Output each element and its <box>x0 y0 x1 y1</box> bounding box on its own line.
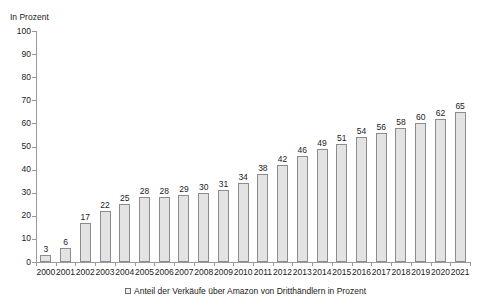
x-axis-tick-label: 2002 <box>76 267 95 277</box>
bar-value-label: 25 <box>120 193 129 203</box>
bar-value-label: 49 <box>317 138 326 148</box>
bar: 3 <box>40 255 51 262</box>
bar-value-label: 51 <box>337 133 346 143</box>
x-axis-tick-label: 2009 <box>214 267 233 277</box>
x-tick-mark <box>214 262 215 266</box>
bar-value-label: 17 <box>81 212 90 222</box>
bar: 6 <box>60 248 71 262</box>
x-tick-mark <box>115 262 116 266</box>
x-tick-mark <box>75 262 76 266</box>
bar-value-label: 31 <box>219 179 228 189</box>
x-axis-tick-label: 2017 <box>372 267 391 277</box>
x-tick-mark <box>95 262 96 266</box>
bar-value-label: 3 <box>43 244 48 254</box>
y-axis-tick-label: 40 <box>22 164 31 174</box>
bar-value-label: 46 <box>298 145 307 155</box>
bar-value-label: 58 <box>396 117 405 127</box>
x-tick-mark <box>292 262 293 266</box>
x-axis-tick-label: 2019 <box>411 267 430 277</box>
square-outline-icon <box>125 288 131 294</box>
bar-value-label: 62 <box>436 108 445 118</box>
x-tick-mark <box>233 262 234 266</box>
bar: 28 <box>139 197 150 262</box>
x-axis-tick-label: 2014 <box>313 267 332 277</box>
x-tick-mark <box>391 262 392 266</box>
bar-value-label: 30 <box>199 182 208 192</box>
x-axis-tick-label: 2015 <box>332 267 351 277</box>
x-axis-tick-label: 2003 <box>96 267 115 277</box>
plot-area: 3617222528282930313438424649515456586062… <box>36 31 470 262</box>
bar: 49 <box>317 149 328 262</box>
bar: 62 <box>435 119 446 262</box>
bar-value-label: 34 <box>238 172 247 182</box>
x-tick-mark <box>36 262 37 266</box>
x-tick-mark <box>352 262 353 266</box>
bar-value-label: 22 <box>100 200 109 210</box>
x-tick-mark <box>194 262 195 266</box>
bar: 30 <box>198 193 209 262</box>
x-axis-tick-label: 2004 <box>115 267 134 277</box>
y-axis-tick-label: 0 <box>26 257 31 267</box>
bar: 28 <box>159 197 170 262</box>
bar: 22 <box>100 211 111 262</box>
bar: 56 <box>376 133 387 262</box>
bar-chart: In Prozent 0102030405060708090100 361722… <box>0 0 491 306</box>
x-axis-tick-label: 2016 <box>352 267 371 277</box>
x-axis-tick-label: 2020 <box>431 267 450 277</box>
x-tick-mark <box>135 262 136 266</box>
x-tick-mark <box>56 262 57 266</box>
bar: 65 <box>455 112 466 262</box>
y-axis-title: In Prozent <box>10 12 49 22</box>
bar-value-label: 29 <box>179 184 188 194</box>
bar: 38 <box>257 174 268 262</box>
x-axis-tick-label: 2012 <box>273 267 292 277</box>
bar: 42 <box>277 165 288 262</box>
y-axis-tick-label: 20 <box>22 210 31 220</box>
chart-legend: Anteil der Verkäufe über Amazon von Drit… <box>0 286 491 296</box>
x-tick-mark <box>470 262 471 266</box>
x-tick-mark <box>253 262 254 266</box>
y-axis-tick-label: 50 <box>22 141 31 151</box>
bar-value-label: 65 <box>455 101 464 111</box>
bar: 17 <box>80 223 91 262</box>
x-tick-mark <box>450 262 451 266</box>
y-axis-tick-label: 60 <box>22 118 31 128</box>
y-axis-tick-label: 100 <box>17 26 31 36</box>
x-tick-mark <box>431 262 432 266</box>
y-axis-tick-label: 70 <box>22 95 31 105</box>
bar: 31 <box>218 190 229 262</box>
x-tick-mark <box>332 262 333 266</box>
y-axis-tick-label: 80 <box>22 72 31 82</box>
y-axis-tick-label: 10 <box>22 233 31 243</box>
bar-value-label: 28 <box>159 186 168 196</box>
bar: 29 <box>178 195 189 262</box>
x-tick-mark <box>312 262 313 266</box>
x-axis-tick-label: 2000 <box>36 267 55 277</box>
bar: 58 <box>395 128 406 262</box>
x-tick-mark <box>411 262 412 266</box>
x-axis-tick-label: 2013 <box>293 267 312 277</box>
bar-value-label: 42 <box>278 154 287 164</box>
bar-value-label: 56 <box>376 122 385 132</box>
x-tick-mark <box>174 262 175 266</box>
x-axis-tick-label: 2021 <box>451 267 470 277</box>
bar-value-label: 28 <box>140 186 149 196</box>
y-axis-tick-label: 30 <box>22 187 31 197</box>
x-tick-mark <box>273 262 274 266</box>
x-axis-tick-label: 2010 <box>234 267 253 277</box>
x-axis-tick-label: 2006 <box>155 267 174 277</box>
bar: 60 <box>415 123 426 262</box>
bar-value-label: 60 <box>416 112 425 122</box>
x-axis-tick-label: 2018 <box>391 267 410 277</box>
legend-label: Anteil der Verkäufe über Amazon von Drit… <box>134 286 366 296</box>
x-axis-tick-label: 2008 <box>194 267 213 277</box>
bar: 34 <box>238 183 249 262</box>
bar: 25 <box>119 204 130 262</box>
bar-value-label: 54 <box>357 126 366 136</box>
bar: 54 <box>356 137 367 262</box>
x-axis-tick-label: 2001 <box>56 267 75 277</box>
bar: 51 <box>336 144 347 262</box>
x-tick-mark <box>371 262 372 266</box>
bar: 46 <box>297 156 308 262</box>
bar-value-label: 6 <box>63 237 68 247</box>
